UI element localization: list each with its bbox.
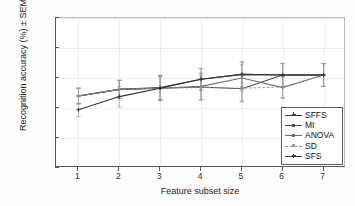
x-tick-label: 5 (226, 172, 256, 181)
y-tick-mark (55, 77, 59, 78)
y-tick-mark (55, 137, 59, 138)
legend-item-anova: ANOVA (285, 131, 339, 141)
x-tick-label: 7 (308, 172, 338, 181)
legend-marker-icon (292, 154, 296, 158)
data-point-marker (322, 73, 326, 77)
legend-label: SFFS (302, 111, 327, 120)
legend-label: MI (302, 121, 314, 130)
x-tick-label: 2 (103, 172, 133, 181)
legend-marker-icon (292, 144, 295, 147)
legend-label: SD (302, 142, 317, 151)
x-tick-mark (200, 167, 201, 171)
legend-item-sffs: SFFS (285, 110, 339, 120)
data-point-marker (241, 87, 243, 89)
legend-marker-icon (292, 134, 295, 137)
legend-swatch-icon (285, 121, 302, 130)
legend-marker-icon (292, 112, 296, 116)
x-tick-label: 4 (185, 172, 215, 181)
data-point-marker (117, 95, 121, 99)
legend-swatch-icon (285, 131, 302, 140)
x-tick-mark (282, 167, 283, 171)
x-tick-label: 6 (267, 172, 297, 181)
x-tick-mark (159, 167, 160, 171)
figure: 00.050.10.150.20.25 1234567 Recognition … (0, 0, 355, 206)
legend-item-mi: MI (285, 120, 339, 130)
legend-label: SFS (302, 152, 322, 161)
legend-swatch-icon (285, 111, 302, 120)
x-tick-label: 3 (144, 172, 174, 181)
legend-swatch-icon (285, 152, 302, 161)
x-tick-mark (77, 167, 78, 171)
y-tick-mark (55, 47, 59, 48)
legend-label: ANOVA (302, 131, 334, 140)
legend-item-sd: SD (285, 141, 339, 151)
y-axis-label: Recognition accuracy (%) ± SEM (18, 0, 28, 150)
x-axis-label: Feature subset size (55, 186, 345, 196)
legend-marker-icon (292, 124, 295, 127)
legend-item-sfs: SFS (285, 152, 339, 162)
data-point-marker (77, 95, 79, 97)
legend: SFFSMIANOVASDSFS (281, 107, 343, 165)
y-tick-mark (55, 107, 59, 108)
legend-swatch-icon (285, 142, 302, 151)
data-point-marker (199, 77, 203, 81)
x-tick-label: 1 (62, 172, 92, 181)
x-tick-mark (323, 167, 324, 171)
x-tick-mark (241, 167, 242, 171)
data-point-marker (76, 108, 80, 112)
y-tick-mark (55, 17, 59, 18)
y-tick-mark (55, 167, 59, 168)
x-tick-mark (118, 167, 119, 171)
